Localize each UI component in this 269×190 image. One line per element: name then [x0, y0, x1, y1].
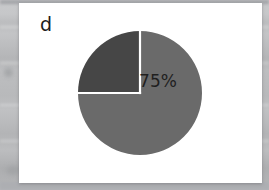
background-bottom-strip [0, 182, 269, 190]
pie-chart-svg: 75% [78, 31, 202, 155]
background-blob [4, 68, 13, 77]
panel-label: d [40, 15, 52, 34]
pie-chart: 75% [78, 31, 202, 155]
screenshot-root: d 75% [0, 0, 269, 190]
pie-slice-minor[interactable] [78, 31, 140, 93]
background-blob [6, 166, 20, 175]
figure-card: d 75% [19, 3, 262, 183]
pie-slice-major-label: 75% [139, 71, 177, 91]
